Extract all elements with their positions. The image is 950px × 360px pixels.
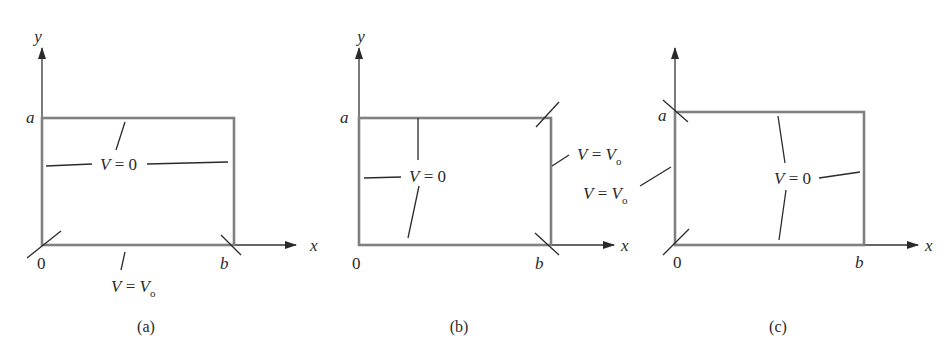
panel-caption: (b) (450, 318, 469, 336)
panel-a: y x a 0 b V = 0 V = Vo (a) (26, 27, 318, 336)
leader-left (364, 177, 401, 178)
leader-top (778, 116, 785, 163)
origin-label: 0 (352, 254, 361, 273)
panel-caption: (a) (137, 318, 155, 336)
x-axis-label: x (924, 236, 933, 255)
boundary-label-v0: V = 0 (774, 169, 811, 188)
panel-caption: (c) (769, 318, 787, 336)
leader-right (147, 162, 228, 164)
region-box (42, 118, 234, 245)
panel-c: x a 0 b V = 0 V = Vo (c) (583, 48, 933, 336)
x-end-label: b (855, 253, 864, 272)
y-end-label: a (340, 108, 349, 127)
leader-bottom (779, 190, 786, 240)
leader-top (116, 122, 125, 150)
region-box (359, 118, 551, 245)
origin-label: 0 (673, 253, 682, 272)
y-end-label: a (658, 106, 667, 125)
boundary-label-vo: V = Vo (583, 184, 628, 206)
figure-three-panels: y x a 0 b V = 0 V = Vo (a) y x a 0 b V =… (0, 0, 950, 360)
boundary-label-vo: V = Vo (111, 277, 156, 299)
x-axis-label: x (620, 236, 629, 255)
boundary-label-vo: V = Vo (577, 145, 622, 167)
x-axis-label: x (309, 236, 318, 255)
leader-bottom (408, 186, 419, 238)
y-end-label: a (26, 108, 35, 127)
diagram-canvas: y x a 0 b V = 0 V = Vo (a) y x a 0 b V =… (0, 0, 950, 360)
leader-bottom (121, 252, 125, 270)
corner-gap-mark (536, 102, 559, 127)
panel-b: y x a 0 b V = 0 V = Vo (b) (340, 27, 629, 336)
leader-right (819, 172, 860, 178)
region-box (675, 112, 864, 245)
leader-left (640, 167, 671, 186)
y-axis-label: y (355, 27, 365, 46)
leader-left (46, 164, 92, 166)
leader-right (552, 155, 569, 166)
y-axis-label: y (32, 27, 42, 46)
x-end-label: b (535, 254, 544, 273)
boundary-label-v0: V = 0 (409, 167, 446, 186)
boundary-label-v0: V = 0 (100, 155, 137, 174)
origin-label: 0 (37, 254, 46, 273)
x-end-label: b (220, 254, 229, 273)
